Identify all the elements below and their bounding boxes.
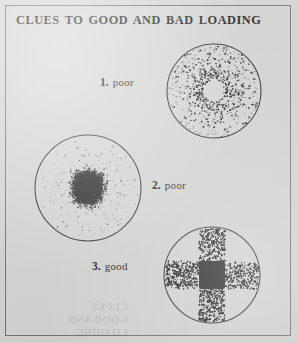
panel-3-svg [162, 225, 264, 327]
panel-3-core-square [199, 261, 225, 289]
panel-1-number: 1. [100, 76, 109, 88]
panel-2-diagram [31, 132, 145, 246]
panel-3-caption: 3.good [92, 260, 128, 272]
panel-3-verdict: good [105, 260, 128, 272]
panel-3-number: 3. [92, 260, 101, 272]
panel-3-diagram [162, 225, 264, 327]
panel-1-verdict: poor [113, 76, 134, 88]
figure-panel: CLUES GOOD AND LOADING CLUES TO GOOD AND… [0, 0, 298, 343]
panel-2-caption: 2.poor [152, 179, 186, 191]
panel-2-verdict: poor [165, 179, 186, 191]
panel-2-number: 2. [152, 179, 161, 191]
panel-2-stipple [42, 141, 138, 235]
panel-1-diagram [165, 42, 265, 142]
panel-1-caption: 1.poor [100, 76, 134, 88]
page-title: CLUES TO GOOD AND BAD LOADING [16, 13, 261, 28]
panel-2-svg [31, 132, 145, 246]
panel-1-svg [165, 42, 265, 142]
